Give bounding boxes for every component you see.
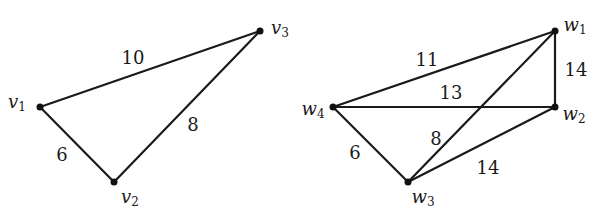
edge-weight-w4-w3: 6: [349, 144, 360, 162]
edge-weight-w4-w2: 13: [440, 84, 463, 102]
vertex-label-base: w: [301, 98, 316, 119]
vertex-label-base: w: [411, 186, 426, 207]
vertex-label-v3: v3: [271, 19, 289, 39]
edge-weight-v1-v2: 6: [56, 146, 67, 164]
edge-v1-v3: [40, 31, 260, 107]
vertex-label-subscript: 1: [18, 100, 26, 114]
vertex-label-base: v: [8, 91, 18, 112]
edge-v1-v2: [40, 107, 114, 182]
vertex-label-base: v: [121, 186, 131, 207]
edge-weight-w3-w2: 14: [477, 159, 500, 177]
vertex-v2: [111, 179, 118, 186]
edge-weight-v1-v3: 10: [122, 49, 145, 67]
vertex-label-base: w: [563, 14, 578, 35]
vertex-label-v1: v1: [8, 93, 26, 113]
vertex-label-subscript: 1: [579, 23, 587, 37]
edge-weight-w4-w1: 11: [416, 51, 439, 69]
vertex-w3: [405, 179, 412, 186]
edge-w4-w3: [333, 107, 408, 182]
vertex-label-subscript: 2: [131, 195, 139, 209]
vertex-label-v2: v2: [121, 188, 139, 208]
vertex-label-w4: w4: [301, 100, 324, 120]
vertex-label-subscript: 3: [281, 26, 289, 40]
edge-weight-w3-w1: 8: [430, 130, 441, 148]
edge-weight-v2-v3: 8: [187, 116, 198, 134]
edges-layer: [0, 0, 594, 214]
vertex-w1: [552, 28, 559, 35]
vertex-label-w2: w2: [562, 105, 585, 125]
vertex-w2: [552, 104, 559, 111]
edge-weight-w1-w2: 14: [565, 61, 588, 79]
vertex-v3: [257, 28, 264, 35]
vertex-w4: [330, 104, 337, 111]
vertex-label-w1: w1: [563, 16, 586, 36]
vertex-label-subscript: 2: [578, 112, 586, 126]
vertex-label-subscript: 3: [427, 195, 435, 209]
vertex-v1: [37, 104, 44, 111]
vertex-label-w3: w3: [411, 188, 434, 208]
vertex-label-subscript: 4: [317, 107, 325, 121]
vertex-label-base: v: [271, 17, 281, 38]
graph-diagram: 1068v1v2v31113148614w1w2w3w4: [0, 0, 594, 214]
vertex-label-base: w: [562, 103, 577, 124]
